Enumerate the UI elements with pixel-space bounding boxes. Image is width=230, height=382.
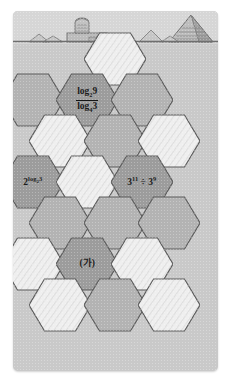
cut-off-header-strip: [0, 0, 230, 11]
hexagon-grid: log29log432log23311 ÷ 39(가): [13, 42, 218, 371]
hex-cell-label: 311 ÷ 39: [127, 176, 156, 188]
hex-cell-label: log29log43: [76, 87, 98, 113]
hex-cell-label: 2log23: [23, 176, 42, 188]
hex-shape: [29, 278, 91, 332]
hex-shape: [138, 278, 200, 332]
hexagon-puzzle-card: log29log432log23311 ÷ 39(가): [13, 11, 218, 371]
hex-cell[interactable]: [29, 278, 91, 332]
figure-stage: log29log432log23311 ÷ 39(가): [0, 0, 230, 382]
hex-shape: [84, 278, 146, 332]
hex-cell-label: (가): [80, 259, 95, 269]
hex-cell[interactable]: [84, 278, 146, 332]
hex-cell[interactable]: [138, 278, 200, 332]
